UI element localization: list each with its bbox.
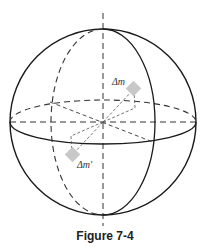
sphere-diagram: Δm Δm′ (0, 0, 210, 249)
label-dm: Δm (111, 76, 125, 87)
radius-to-dm-prime (73, 122, 103, 154)
figure-caption: Figure 7-4 (0, 229, 210, 243)
mass-element-dm (126, 81, 142, 97)
radius-to-dm (103, 90, 133, 122)
label-dm-prime: Δm′ (76, 159, 93, 170)
